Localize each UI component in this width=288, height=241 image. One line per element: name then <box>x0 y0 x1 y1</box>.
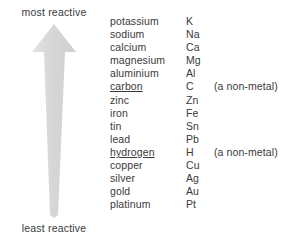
element-name: lead <box>110 133 186 146</box>
element-name: magnesium <box>110 54 186 67</box>
element-name: hydrogen <box>110 146 186 159</box>
element-row: goldAu <box>110 185 288 198</box>
element-name: gold <box>110 185 186 198</box>
element-name: tin <box>110 120 186 133</box>
element-symbol: K <box>186 15 214 28</box>
element-row: leadPb <box>110 133 288 146</box>
element-symbol: Sn <box>186 120 214 133</box>
element-row: silverAg <box>110 172 288 185</box>
element-name: zinc <box>110 94 186 107</box>
element-row: magnesiumMg <box>110 54 288 67</box>
element-note: (a non-metal) <box>214 80 278 93</box>
element-name: potassium <box>110 15 186 28</box>
element-symbol: Pb <box>186 133 214 146</box>
element-name: silver <box>110 172 186 185</box>
element-symbol: Cu <box>186 159 214 172</box>
element-symbol: Zn <box>186 94 214 107</box>
element-row: aluminiumAl <box>110 67 288 80</box>
element-name: platinum <box>110 198 186 211</box>
element-row: platinumPt <box>110 198 288 211</box>
least-reactive-label: least reactive <box>0 222 108 234</box>
element-row: copperCu <box>110 159 288 172</box>
element-symbol: Ag <box>186 172 214 185</box>
element-row: zincZn <box>110 94 288 107</box>
element-symbol: H <box>186 146 214 159</box>
most-reactive-label: most reactive <box>0 6 108 18</box>
element-symbol: Na <box>186 28 214 41</box>
element-row: hydrogenH(a non-metal) <box>110 146 288 159</box>
element-name: calcium <box>110 41 186 54</box>
element-row: ironFe <box>110 107 288 120</box>
element-symbol: Mg <box>186 54 214 67</box>
element-name: sodium <box>110 28 186 41</box>
element-name: copper <box>110 159 186 172</box>
element-symbol: Al <box>186 67 214 80</box>
upward-arrow-icon <box>22 24 88 218</box>
element-row: calciumCa <box>110 41 288 54</box>
element-name: carbon <box>110 80 186 93</box>
reactivity-arrow-column: most reactive least reactive <box>0 0 108 241</box>
element-symbol: Fe <box>186 107 214 120</box>
element-symbol: Au <box>186 185 214 198</box>
element-name: iron <box>110 107 186 120</box>
element-row: carbonC(a non-metal) <box>110 80 288 93</box>
element-name: aluminium <box>110 67 186 80</box>
element-note: (a non-metal) <box>214 146 278 159</box>
element-symbol: Ca <box>186 41 214 54</box>
element-symbol: C <box>186 80 214 93</box>
element-row: potassiumK <box>110 15 288 28</box>
element-list: potassiumKsodiumNacalciumCamagnesiumMgal… <box>110 15 288 211</box>
element-row: sodiumNa <box>110 28 288 41</box>
reactivity-series-diagram: most reactive least reactive potassiumKs… <box>0 0 288 241</box>
element-row: tinSn <box>110 120 288 133</box>
element-symbol: Pt <box>186 198 214 211</box>
